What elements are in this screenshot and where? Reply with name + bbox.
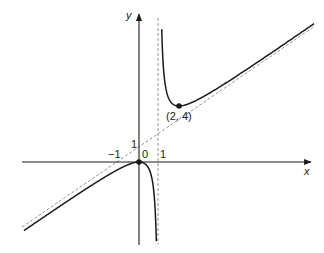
curve-right-branch bbox=[162, 24, 314, 106]
tick-label-y-one: 1 bbox=[131, 138, 137, 150]
tick-label-origin: 0 bbox=[142, 148, 148, 160]
tick-label-x-one: 1 bbox=[160, 148, 166, 160]
origin-point bbox=[136, 159, 142, 165]
y-axis-label: y bbox=[125, 9, 133, 21]
oblique-asymptote bbox=[22, 26, 315, 227]
x-axis-label: x bbox=[303, 165, 310, 177]
tick-label-neg-one: −1 bbox=[108, 148, 121, 160]
curve-left-branch bbox=[24, 162, 156, 241]
minimum-point bbox=[176, 103, 182, 109]
point-label-minimum: (2, 4) bbox=[166, 110, 192, 122]
graph-svg: y x −1 0 1 1 (2, 4) bbox=[0, 0, 324, 253]
diagram-canvas: y x −1 0 1 1 (2, 4) bbox=[0, 0, 324, 253]
